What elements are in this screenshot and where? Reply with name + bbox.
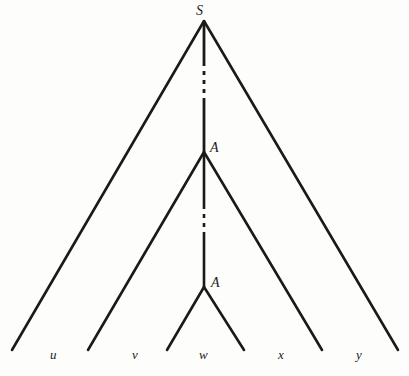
edge-root-to-rightmost-leaf <box>204 21 398 350</box>
leaf-label-x: x <box>278 348 284 361</box>
edge-a2-to-left-leaf <box>167 287 204 350</box>
parse-tree-figure: S A A u v w x y <box>0 0 409 376</box>
tree-edges-canvas <box>0 0 409 376</box>
node-label-root: S <box>196 4 203 18</box>
leaf-label-y: y <box>356 348 362 361</box>
edge-root-to-leftmost-leaf <box>12 21 204 350</box>
node-label-inner-a1: A <box>210 141 219 155</box>
node-label-inner-a2: A <box>211 276 220 290</box>
leaf-label-v: v <box>132 348 138 361</box>
edge-a2-to-right-leaf <box>204 287 244 350</box>
leaf-label-w: w <box>199 348 208 361</box>
edge-a1-to-left-leaf <box>88 152 204 350</box>
edge-a1-to-right-leaf <box>204 152 322 350</box>
leaf-label-u: u <box>50 348 57 361</box>
